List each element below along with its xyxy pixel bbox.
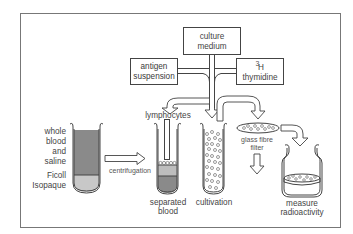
svg-text:filter: filter (250, 144, 264, 151)
svg-text:measure: measure (286, 199, 318, 208)
svg-text:Isopaque: Isopaque (32, 181, 66, 190)
centrifugation-label: centrifugation (109, 167, 151, 175)
lymphocytes-label: lymphocytes (145, 111, 191, 120)
thymidine-line2: thymidine (242, 73, 277, 82)
svg-text:blood: blood (46, 137, 66, 146)
antigen-line1: antigen (141, 62, 168, 71)
culture-medium-line1: culture (200, 32, 225, 41)
svg-text:saline: saline (45, 157, 67, 166)
svg-text:Ficoll: Ficoll (47, 171, 66, 180)
svg-text:blood: blood (158, 207, 178, 216)
measure-radioactivity-label: measure radioactivity (280, 199, 324, 217)
lymphocyte-test-diagram: culture medium antigen suspension 3 H th… (0, 0, 353, 234)
cultivation-label: cultivation (196, 198, 233, 207)
svg-text:whole: whole (44, 127, 67, 136)
antigen-line2: suspension (133, 72, 175, 81)
thymidine-line1: H (258, 63, 264, 72)
whole-blood-tube (70, 123, 103, 193)
svg-text:separated: separated (150, 198, 187, 207)
svg-text:glass fibre: glass fibre (241, 136, 273, 144)
svg-text:radioactivity: radioactivity (280, 208, 324, 217)
culture-medium-line2: medium (197, 42, 226, 51)
svg-text:and: and (52, 147, 66, 156)
